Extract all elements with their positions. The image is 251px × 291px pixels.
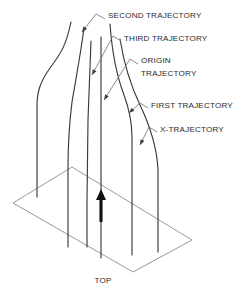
leader-line-origin-trajectory <box>130 59 138 64</box>
callout-labels-group: SECOND TRAJECTORY THIRD TRAJECTORY ORIGI… <box>108 11 233 134</box>
callout-label-x-trajectory: X-TRAJECTORY <box>160 125 224 134</box>
trajectory-curve-second <box>68 28 84 247</box>
callout-label-origin-trajectory-line1: ORIGIN <box>141 56 171 65</box>
arrowhead-origin-trajectory <box>102 94 109 101</box>
flow-arrow-head <box>96 189 106 200</box>
pointer-line-origin-trajectory <box>104 59 130 100</box>
leader-line-second-trajectory <box>96 14 105 19</box>
callout-label-first-trajectory: FIRST TRAJECTORY <box>151 101 233 110</box>
trajectory-curve-third <box>87 41 91 247</box>
trajectory-curve-first <box>110 24 132 255</box>
callout-label-second-trajectory: SECOND TRAJECTORY <box>108 11 202 20</box>
leader-first-trajectory <box>128 103 148 115</box>
leader-origin-trajectory <box>102 59 138 101</box>
flow-arrow-group <box>96 189 106 222</box>
base-plane-label: TOP <box>94 276 111 285</box>
callout-label-origin-trajectory-line2: TRAJECTORY <box>141 69 197 78</box>
callout-label-third-trajectory: THIRD TRAJECTORY <box>124 34 208 43</box>
leader-second-trajectory <box>80 14 105 33</box>
trajectory-curves-group <box>37 22 158 258</box>
diagram-canvas: SECOND TRAJECTORY THIRD TRAJECTORY ORIGI… <box>0 0 251 291</box>
arrowhead-x-trajectory <box>138 139 144 146</box>
trajectory-diagram-figure: SECOND TRAJECTORY THIRD TRAJECTORY ORIGI… <box>0 0 251 291</box>
arrowhead-third-trajectory <box>90 69 96 76</box>
pointer-line-third-trajectory <box>92 36 113 75</box>
